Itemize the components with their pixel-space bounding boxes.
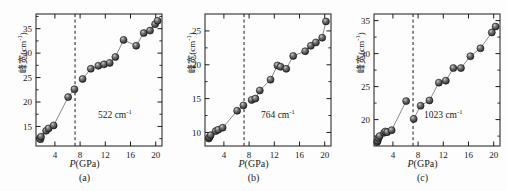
svg-text:35: 35	[361, 16, 371, 26]
svg-text:25: 25	[192, 26, 202, 36]
panel-b-tag: (b)	[169, 172, 338, 183]
panel-c-x-axis-label: P(GPa)	[338, 158, 507, 169]
figure-container: 峰宽(cm-1) 481216201520253035 522 cm-1 P(G…	[0, 0, 507, 191]
svg-text:30: 30	[361, 49, 371, 59]
svg-text:10: 10	[192, 128, 202, 138]
panel-a: 峰宽(cm-1) 481216201520253035 522 cm-1 P(G…	[0, 0, 169, 191]
panel-c-annotation: 1023 cm-1	[424, 108, 462, 120]
panel-b: 峰宽(cm-1) 4812162010152025 764 cm-1 P(GPa…	[169, 0, 338, 191]
panel-b-annotation: 764 cm-1	[261, 108, 295, 120]
svg-text:20: 20	[192, 60, 202, 70]
panel-c: 峰宽(cm-1) 4812162020253035 1023 cm-1 P(GP…	[338, 0, 507, 191]
panel-a-annotation: 522 cm-1	[98, 108, 132, 120]
panel-c-tag: (c)	[338, 172, 507, 183]
svg-text:25: 25	[23, 73, 33, 83]
svg-text:30: 30	[23, 48, 33, 58]
panel-a-x-axis-label: P(GPa)	[0, 158, 169, 169]
svg-text:35: 35	[23, 24, 33, 34]
svg-text:25: 25	[361, 82, 371, 92]
panel-b-x-axis-label: P(GPa)	[169, 158, 338, 169]
panel-a-tag: (a)	[0, 172, 169, 183]
svg-text:20: 20	[23, 97, 33, 107]
svg-text:20: 20	[361, 115, 371, 125]
svg-text:15: 15	[23, 122, 33, 132]
svg-text:15: 15	[192, 94, 202, 104]
